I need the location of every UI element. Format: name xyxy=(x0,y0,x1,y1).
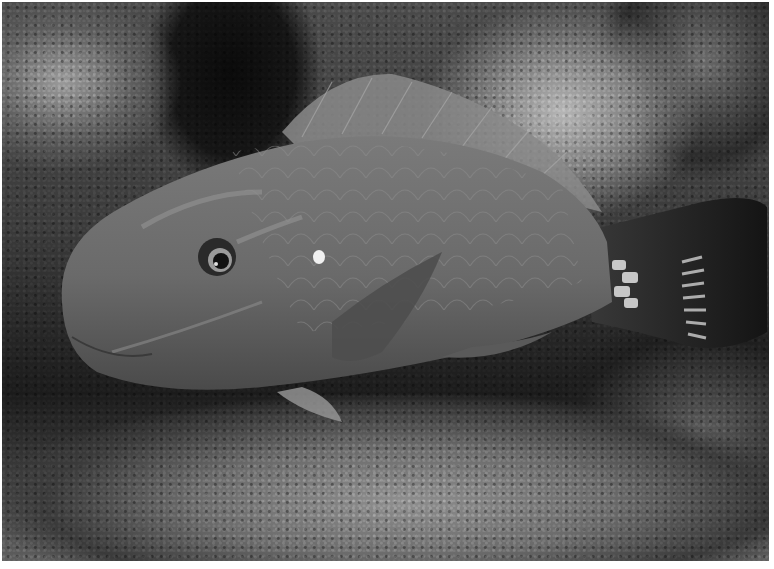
pelvic-fin xyxy=(277,387,342,422)
eye xyxy=(198,238,236,276)
parrotfish-photo xyxy=(2,2,769,561)
gill-spot xyxy=(313,250,325,264)
parrotfish xyxy=(2,2,769,561)
tail-fin xyxy=(582,198,767,348)
